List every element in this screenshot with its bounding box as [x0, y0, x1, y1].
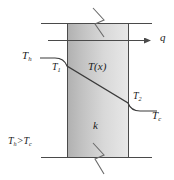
label-cold-surface-temperature: T2	[133, 91, 142, 101]
label-temperature-profile: T(x)	[88, 61, 106, 72]
label-hot-surface-temperature: T1	[52, 62, 61, 72]
figure-canvas	[0, 0, 174, 180]
label-hot-fluid-temperature: Th	[22, 50, 32, 61]
label-heat-flux: q	[160, 32, 166, 43]
plane-wall-conduction-figure: Th T1 T(x) T2 Tc k q Th>Tc	[0, 0, 174, 180]
wall-slab	[67, 23, 128, 157]
label-thermal-conductivity: k	[93, 120, 98, 131]
label-temperature-inequality: Th>Tc	[8, 136, 32, 146]
label-cold-fluid-temperature: Tc	[152, 110, 161, 121]
